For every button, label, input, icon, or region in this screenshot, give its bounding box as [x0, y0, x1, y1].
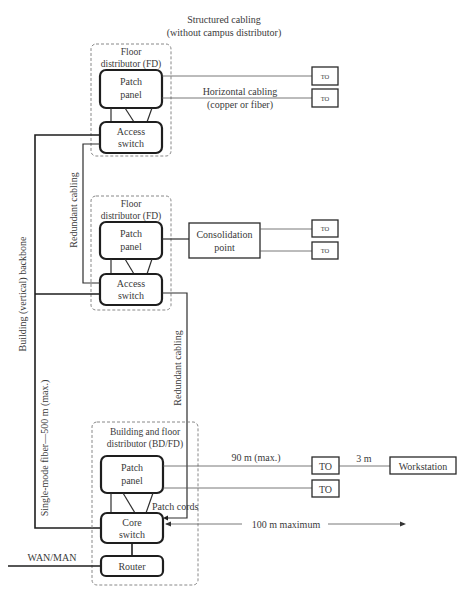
redundant-cable-left — [83, 144, 100, 283]
wan-label: WAN/MAN — [28, 552, 77, 563]
access-switch-middle-label: Access — [117, 278, 145, 289]
distance-3m-label: 3 m — [356, 453, 372, 464]
diagram-subtitle: (without campus distributor) — [167, 27, 281, 39]
horizontal-cabling-sublabel: (copper or fiber) — [207, 99, 273, 111]
core-switch-label: Core — [122, 517, 142, 528]
patch-panel-middle-label-2: panel — [120, 241, 142, 252]
horizontal-cabling-label: Horizontal cabling — [203, 86, 278, 97]
distance-90m-label: 90 m (max.) — [231, 452, 280, 464]
patch-panel-middle-label: Patch — [120, 228, 142, 239]
fiber-length-label: Single-mode fiber—500 m (max.) — [39, 380, 51, 517]
distance-100m-label: 100 m maximum — [252, 519, 321, 530]
consolidation-point-label: Consolidation — [196, 229, 252, 240]
floor-distributor-middle: Floor distributor (FD) Patch panel Acces… — [91, 196, 338, 310]
diagram-title: Structured cabling — [187, 14, 261, 25]
telecom-outlet-label: TO — [319, 461, 332, 472]
core-switch-label-2: switch — [119, 529, 145, 540]
access-switch-top-label-2: switch — [118, 138, 144, 149]
patch-panel-top-label: Patch — [120, 76, 142, 87]
fd-middle-label-2: distributor (FD) — [101, 211, 161, 222]
fd-top-label-2: distributor (FD) — [101, 59, 161, 70]
telecom-outlet-label: TO — [319, 484, 332, 495]
redundant-cabling-label-left: Redundant cabling — [68, 172, 79, 247]
bd-label: Building and floor — [110, 427, 181, 437]
bd-label-2: distributor (BD/FD) — [107, 439, 183, 450]
workstation-label: Workstation — [399, 461, 448, 472]
telecom-outlet-label: TO — [321, 225, 330, 232]
patch-cords-label: Patch cords — [152, 501, 198, 512]
patch-cord — [123, 493, 135, 513]
redundant-cabling-label-right: Redundant cabling — [172, 330, 183, 405]
floor-distributor-top: Floor distributor (FD) Patch panel Acces… — [91, 44, 338, 156]
patch-panel-bd-label-2: panel — [121, 475, 143, 486]
arrowhead-left-icon — [165, 522, 171, 527]
access-switch-middle-label-2: switch — [118, 290, 144, 301]
router-label: Router — [118, 561, 146, 572]
telecom-outlet-label: TO — [321, 73, 330, 80]
building-distributor: Building and floor distributor (BD/FD) P… — [8, 422, 456, 585]
access-switch-top-label: Access — [117, 126, 145, 137]
consolidation-point-label-2: point — [214, 242, 235, 253]
fd-middle-label: Floor — [121, 199, 142, 209]
telecom-outlet-label: TO — [321, 95, 330, 102]
patch-cord — [147, 108, 152, 122]
arrowhead-right-icon — [400, 522, 406, 527]
patch-panel-bd-label: Patch — [121, 462, 143, 473]
patch-cord — [125, 259, 134, 274]
backbone-label: Building (vertical) backbone — [17, 236, 29, 352]
fd-top-label: Floor — [121, 47, 142, 57]
structured-cabling-diagram: Structured cabling (without campus distr… — [0, 0, 472, 602]
patch-panel-top-label-2: panel — [120, 89, 142, 100]
patch-cord — [125, 108, 134, 122]
telecom-outlet-label: TO — [321, 247, 330, 254]
patch-cord — [147, 259, 152, 274]
